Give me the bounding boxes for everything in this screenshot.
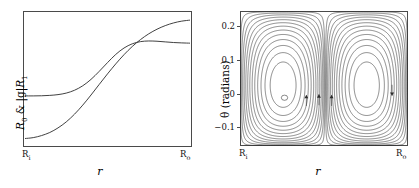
contour-lines <box>241 12 408 146</box>
contour-line <box>354 62 379 107</box>
right-panel-plot-area <box>240 11 408 146</box>
xtick-outer-sub-r: o <box>402 153 406 161</box>
contour-line <box>339 34 394 130</box>
curve-g-r1 <box>25 41 190 96</box>
contour-line <box>326 13 406 145</box>
y-label-r0-sub: 0 <box>21 118 29 122</box>
left-panel-xtick-outer-radius: Ro <box>180 149 190 162</box>
right-panel-ytick-mark-3 <box>237 127 240 128</box>
right-panel-xtick-outer-radius: Ro <box>396 148 406 161</box>
left-panel-y-axis-label: R0 & |g|R1 <box>14 75 29 130</box>
contour-line <box>270 62 296 107</box>
contour-line <box>331 20 403 141</box>
left-panel-xtick-inner-radius: Ri <box>22 149 31 162</box>
xtick-inner-sub-r: i <box>245 153 247 161</box>
xtick-inner-sub: i <box>28 154 30 162</box>
y-label-r0: R <box>14 122 26 130</box>
vortex-core-left-cell <box>281 95 287 100</box>
right-panel-ytick-0: 0.2 <box>221 21 235 31</box>
xtick-outer-sub: o <box>186 154 190 162</box>
figure-root: R0 & |g|R1 r Ri Ro θ (radians) 0.20.10−0… <box>0 0 419 188</box>
curve-r0 <box>25 20 190 138</box>
right-panel-ytick-mark-1 <box>237 60 240 61</box>
contour-line <box>241 13 323 145</box>
left-panel-x-axis-label: r <box>97 165 102 178</box>
right-panel-ytick-1: 0.1 <box>221 55 235 65</box>
right-panel-streamlines <box>240 11 408 146</box>
left-panel-plot-area <box>23 11 192 147</box>
right-panel-x-axis-label: r <box>315 165 320 178</box>
y-label-r1: R <box>14 80 26 88</box>
y-label-r1-sub: 1 <box>21 75 29 79</box>
left-panel-curves <box>23 11 192 147</box>
contour-line <box>261 45 305 121</box>
arrow-head <box>330 95 334 98</box>
right-panel-ytick-3: −0.1 <box>214 122 235 132</box>
y-label-amp: & |g| <box>14 88 26 118</box>
contour-line <box>246 20 320 141</box>
contour-line <box>255 34 311 130</box>
right-panel-xtick-inner-radius: Ri <box>239 148 248 161</box>
contour-line <box>345 45 388 121</box>
contour-line <box>326 12 408 146</box>
right-panel-ytick-group: 0.20.10−0.1 <box>210 11 237 146</box>
arrow-head <box>390 92 394 95</box>
right-panel-ytick-mark-0 <box>237 26 240 27</box>
right-panel-ytick-2: 0 <box>230 89 235 99</box>
right-panel-ytick-mark-2 <box>237 94 240 95</box>
